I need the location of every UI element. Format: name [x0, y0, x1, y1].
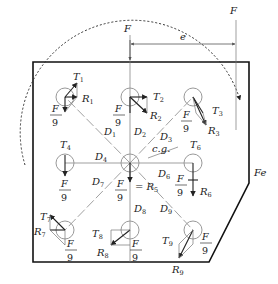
svg-text:R6: R6	[199, 186, 212, 199]
svg-text:F: F	[51, 103, 59, 114]
svg-text:D2: D2	[133, 126, 146, 139]
svg-text:D9: D9	[159, 203, 172, 216]
fraction-bolt-5: F9	[115, 178, 127, 203]
svg-text:T7: T7	[40, 211, 51, 224]
svg-text:R1: R1	[81, 93, 94, 106]
svg-text:F: F	[66, 238, 74, 249]
svg-text:F: F	[201, 231, 209, 242]
svg-text:T6: T6	[190, 139, 201, 152]
svg-text:D8: D8	[133, 203, 146, 216]
svg-text:9: 9	[67, 252, 73, 263]
svg-text:9: 9	[61, 192, 67, 203]
fraction-bolt-3: F9	[181, 109, 192, 134]
svg-text:T3: T3	[212, 105, 223, 118]
svg-text:F: F	[131, 238, 139, 249]
svg-text:9: 9	[115, 117, 121, 128]
fraction-bolt-1: F9	[50, 103, 62, 128]
svg-text:T2: T2	[153, 91, 164, 104]
fraction-bolt-9: F9	[200, 231, 212, 256]
svg-text:9: 9	[183, 123, 189, 134]
svg-text:9: 9	[52, 117, 58, 128]
center-equation: = R5	[135, 181, 158, 194]
moment-label: Fe	[253, 167, 266, 178]
svg-text:D7: D7	[91, 176, 104, 189]
svg-text:T8: T8	[92, 228, 103, 241]
load-label-applied: F	[229, 5, 238, 16]
bolt-group-diagram: F F e Fe	[0, 0, 278, 284]
svg-text:T1: T1	[73, 71, 84, 84]
svg-text:D6: D6	[157, 168, 170, 181]
svg-text:R8: R8	[96, 247, 109, 260]
svg-text:9: 9	[202, 245, 208, 256]
fraction-bolt-7: F9	[65, 238, 77, 263]
radial-lines	[65, 97, 193, 230]
svg-text:9: 9	[117, 192, 123, 203]
svg-text:F: F	[176, 173, 184, 184]
svg-text:9: 9	[132, 252, 138, 263]
svg-text:D4: D4	[94, 151, 107, 164]
svg-text:R9: R9	[171, 264, 184, 277]
svg-text:R2: R2	[149, 110, 162, 123]
svg-text:9: 9	[177, 187, 183, 198]
fraction-bolt-6: F9	[175, 173, 187, 198]
svg-text:T9: T9	[162, 235, 173, 248]
distance-labels: D1 D2 D3 D4 D6 D7 D8 D9	[91, 126, 172, 216]
centroid-label: c.g.	[152, 143, 170, 154]
svg-text:T4: T4	[60, 139, 71, 152]
svg-text:R7: R7	[33, 226, 46, 239]
load-label-centroid: F	[123, 23, 132, 34]
svg-text:F: F	[182, 109, 190, 120]
svg-text:F: F	[60, 178, 68, 189]
svg-text:R3: R3	[207, 125, 220, 138]
fraction-bolt-8: F9	[130, 238, 142, 263]
bolt-labels: T1 R1 T2 R2 T3 R3 T4 T6 R6 T7 R7 T8 R8 T…	[33, 71, 223, 277]
fraction-bolt-2: F9	[113, 103, 125, 128]
fraction-bolt-4: F9	[59, 178, 71, 203]
svg-text:F: F	[114, 103, 122, 114]
eccentricity-label: e	[180, 31, 186, 42]
svg-text:F: F	[116, 178, 124, 189]
